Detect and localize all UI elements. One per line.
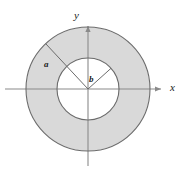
inner-radius-label-b: b xyxy=(89,75,94,84)
x-axis-label: x xyxy=(170,82,175,93)
outer-radius-label-a: a xyxy=(44,60,49,69)
annulus-diagram: y x a b xyxy=(0,0,183,171)
y-axis-label: y xyxy=(74,10,79,21)
x-axis-arrowhead xyxy=(155,86,161,91)
annulus-svg-canvas xyxy=(0,0,183,171)
